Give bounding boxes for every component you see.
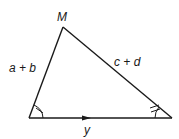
side-label-base: y [84,124,90,136]
vertex-label-apex: M [57,11,67,23]
angle-tick-right-2 [151,109,160,112]
angle-arc-right [155,107,159,118]
arrow-right-icon [82,116,91,121]
side-label-left: a + b [9,62,36,74]
side-right [63,27,172,118]
side-label-right: c + d [114,56,140,68]
